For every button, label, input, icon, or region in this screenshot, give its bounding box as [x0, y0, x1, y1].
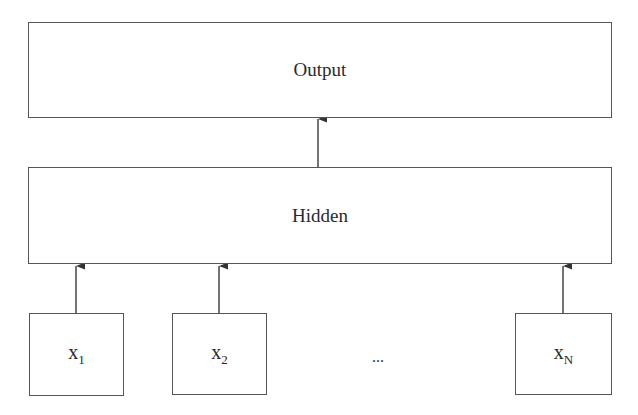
input-label-x1: x1: [68, 341, 85, 368]
input-box-x1: x1: [29, 313, 124, 396]
input-var-subscript: N: [564, 352, 573, 367]
input-var-subscript: 2: [221, 352, 228, 367]
input-var-base: x: [211, 341, 221, 363]
input-label-xn: xN: [554, 341, 573, 368]
input-var-base: x: [554, 341, 564, 363]
input-box-x2: x2: [172, 313, 267, 395]
hidden-layer-box: Hidden: [28, 167, 612, 264]
input-ellipsis: ...: [372, 348, 384, 366]
input-var-subscript: 1: [78, 352, 85, 367]
output-layer-label: Output: [294, 59, 347, 81]
input-var-base: x: [68, 341, 78, 363]
input-box-xn: xN: [515, 313, 612, 395]
output-layer-box: Output: [28, 22, 612, 118]
input-label-x2: x2: [211, 341, 228, 368]
hidden-layer-label: Hidden: [292, 205, 348, 227]
